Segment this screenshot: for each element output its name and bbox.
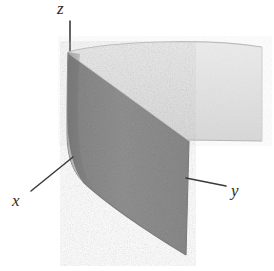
- figure-container: z x y: [0, 0, 274, 271]
- surface-group: [67, 42, 262, 255]
- y-axis-line: [186, 178, 226, 186]
- x-axis-label: x: [12, 192, 20, 209]
- z-axis-label: z: [57, 0, 64, 17]
- cylindrical-surface-diagram: [0, 0, 274, 271]
- y-axis-label: y: [231, 182, 239, 199]
- x-axis-line: [31, 157, 73, 191]
